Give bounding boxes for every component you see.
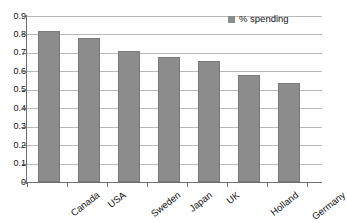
x-tick-mark: [67, 182, 68, 187]
x-tick-mark: [187, 182, 188, 187]
x-tick-label: Germany: [310, 190, 347, 222]
x-tick-mark: [27, 182, 28, 187]
x-tick-label: UK: [225, 190, 242, 206]
bar: [38, 31, 60, 182]
gridline: [26, 34, 322, 35]
bar: [198, 61, 220, 182]
y-axis: 0.90.80.70.60.50.40.30.20.10: [0, 0, 26, 223]
x-tick-mark: [307, 182, 308, 187]
bar: [238, 75, 260, 182]
bar: [78, 38, 100, 182]
gridline: [26, 53, 322, 54]
legend-swatch-icon: [228, 16, 235, 23]
legend-label: % spending: [239, 14, 289, 24]
x-tick-mark: [227, 182, 228, 187]
x-tick-mark: [267, 182, 268, 187]
x-tick-label: Canada: [69, 190, 101, 218]
plot-area: [26, 16, 322, 182]
x-tick-label: USA: [106, 190, 128, 210]
x-tick-mark: [147, 182, 148, 187]
x-tick-mark: [107, 182, 108, 187]
x-tick-label: Japan: [187, 190, 214, 214]
x-tick-label: Sweden: [149, 190, 182, 219]
chart-title: [0, 0, 324, 1]
chart-legend: % spending: [228, 14, 289, 24]
bar: [278, 83, 300, 182]
x-tick-label: Holland: [269, 190, 301, 218]
y-axis-line: [26, 15, 27, 184]
bar: [158, 57, 180, 182]
bar: [118, 51, 140, 182]
